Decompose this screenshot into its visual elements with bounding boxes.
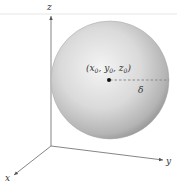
center-point [107,78,111,82]
x-axis [14,146,51,175]
y-axis [51,146,163,160]
radius-label: δ [138,85,143,95]
y-axis-label: y [165,156,172,166]
z-axis-label: z [46,2,52,12]
x-axis-label: x [5,173,10,183]
sphere-diagram: z y x (x0, y0, z0) δ [0,0,177,186]
